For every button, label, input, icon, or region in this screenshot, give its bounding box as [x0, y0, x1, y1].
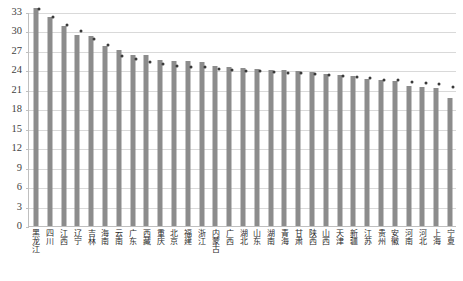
- bar-slot[interactable]: [388, 13, 402, 226]
- data-point-marker[interactable]: [410, 80, 413, 83]
- y-tick-label: 12: [0, 143, 22, 154]
- data-point-marker[interactable]: [286, 71, 289, 74]
- bar-slot[interactable]: [429, 13, 443, 226]
- bar-slot[interactable]: [360, 13, 374, 226]
- bar[interactable]: [227, 67, 232, 226]
- data-point-marker[interactable]: [38, 8, 41, 11]
- data-point-marker[interactable]: [120, 54, 123, 57]
- bar-slot[interactable]: [208, 13, 222, 226]
- data-point-marker[interactable]: [65, 23, 68, 26]
- bar-slot[interactable]: [291, 13, 305, 226]
- data-point-marker[interactable]: [328, 74, 331, 77]
- bar[interactable]: [144, 55, 149, 226]
- bar-slot[interactable]: [347, 13, 361, 226]
- data-point-marker[interactable]: [148, 60, 151, 63]
- x-tick-label: 宁夏: [445, 229, 453, 245]
- bar-slot[interactable]: [250, 13, 264, 226]
- data-point-marker[interactable]: [203, 66, 206, 69]
- bar[interactable]: [420, 87, 425, 226]
- data-point-marker[interactable]: [341, 74, 344, 77]
- data-point-marker[interactable]: [231, 69, 234, 72]
- bar[interactable]: [47, 17, 52, 226]
- bar[interactable]: [240, 68, 245, 226]
- bar-slot[interactable]: [126, 13, 140, 226]
- bar-slot[interactable]: [98, 13, 112, 226]
- data-point-marker[interactable]: [134, 58, 137, 61]
- bar[interactable]: [392, 81, 397, 226]
- data-point-marker[interactable]: [438, 83, 441, 86]
- data-point-marker[interactable]: [217, 67, 220, 70]
- bar-slot[interactable]: [195, 13, 209, 226]
- bar[interactable]: [116, 50, 121, 226]
- data-point-marker[interactable]: [259, 70, 262, 73]
- bar[interactable]: [337, 75, 342, 226]
- bar-slot[interactable]: [181, 13, 195, 226]
- bar-slot[interactable]: [264, 13, 278, 226]
- bar[interactable]: [199, 62, 204, 226]
- x-tick-label: 贵州: [376, 229, 384, 245]
- bar-slot[interactable]: [167, 13, 181, 226]
- data-point-marker[interactable]: [452, 85, 455, 88]
- data-point-marker[interactable]: [369, 77, 372, 80]
- x-tick-label: 四川: [45, 229, 53, 245]
- bar[interactable]: [310, 72, 315, 226]
- bar[interactable]: [254, 69, 259, 226]
- bar-slot[interactable]: [319, 13, 333, 226]
- bar-slot[interactable]: [29, 13, 43, 226]
- y-tick-label: 33: [0, 7, 22, 18]
- data-point-marker[interactable]: [424, 82, 427, 85]
- bar[interactable]: [130, 55, 135, 226]
- data-point-marker[interactable]: [245, 69, 248, 72]
- data-point-marker[interactable]: [93, 37, 96, 40]
- bar[interactable]: [75, 35, 80, 226]
- bar[interactable]: [282, 70, 287, 226]
- bar[interactable]: [434, 88, 439, 226]
- bar-slot[interactable]: [43, 13, 57, 226]
- bar-slot[interactable]: [443, 13, 457, 226]
- bar-slot[interactable]: [402, 13, 416, 226]
- bar[interactable]: [268, 70, 273, 226]
- bar[interactable]: [406, 86, 411, 226]
- bar-slot[interactable]: [374, 13, 388, 226]
- bar[interactable]: [351, 76, 356, 226]
- bar-slot[interactable]: [139, 13, 153, 226]
- data-point-marker[interactable]: [176, 64, 179, 67]
- bar-slot[interactable]: [57, 13, 71, 226]
- bar[interactable]: [323, 74, 328, 226]
- bar-slot[interactable]: [278, 13, 292, 226]
- bar-slot[interactable]: [153, 13, 167, 226]
- data-point-marker[interactable]: [79, 30, 82, 33]
- data-point-marker[interactable]: [272, 71, 275, 74]
- x-tick-label: 辽宁: [72, 229, 80, 245]
- bar-slot[interactable]: [236, 13, 250, 226]
- bar[interactable]: [61, 26, 66, 226]
- bar[interactable]: [213, 66, 218, 226]
- bar[interactable]: [365, 79, 370, 226]
- bar[interactable]: [158, 60, 163, 226]
- bar-slot[interactable]: [222, 13, 236, 226]
- data-point-marker[interactable]: [355, 76, 358, 79]
- data-point-marker[interactable]: [383, 78, 386, 81]
- bar[interactable]: [102, 46, 107, 226]
- data-point-marker[interactable]: [162, 62, 165, 65]
- y-tick-label: 6: [0, 182, 22, 193]
- bar[interactable]: [89, 36, 94, 226]
- bar-slot[interactable]: [333, 13, 347, 226]
- bar-slot[interactable]: [112, 13, 126, 226]
- data-point-marker[interactable]: [300, 72, 303, 75]
- bar-slot[interactable]: [416, 13, 430, 226]
- data-point-marker[interactable]: [397, 79, 400, 82]
- bar-slot[interactable]: [305, 13, 319, 226]
- bar[interactable]: [171, 61, 176, 226]
- data-point-marker[interactable]: [314, 72, 317, 75]
- bar[interactable]: [296, 71, 301, 226]
- data-point-marker[interactable]: [51, 15, 54, 18]
- bar[interactable]: [33, 8, 38, 226]
- bar-slot[interactable]: [70, 13, 84, 226]
- data-point-marker[interactable]: [189, 65, 192, 68]
- bar[interactable]: [185, 61, 190, 226]
- bar-slot[interactable]: [84, 13, 98, 226]
- bar[interactable]: [379, 80, 384, 226]
- bar[interactable]: [448, 98, 453, 226]
- data-point-marker[interactable]: [107, 44, 110, 47]
